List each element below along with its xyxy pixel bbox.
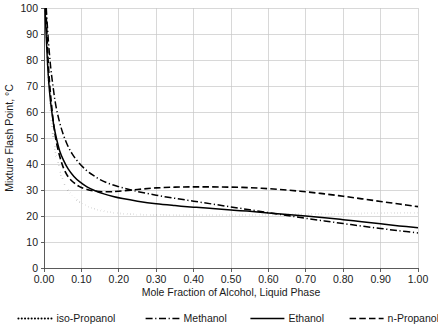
x-tick-label: 0.30	[146, 273, 167, 285]
x-tick-label: 0.80	[333, 273, 354, 285]
gridlines	[44, 8, 418, 268]
axis-titles: Mole Fraction of Alcohol, Liquid PhaseMi…	[3, 84, 320, 298]
chart-legend: iso-PropanolMethanolEthanoln-Propanol	[18, 312, 438, 324]
x-tick-label: 0.20	[109, 273, 130, 285]
y-tick-label: 90	[26, 28, 38, 40]
y-tick-label: 70	[26, 80, 38, 92]
x-axis-title: Mole Fraction of Alcohol, Liquid Phase	[142, 286, 321, 298]
y-axis-title: Mixture Flash Point, °C	[3, 84, 15, 192]
x-tick-label: 0.00	[34, 273, 55, 285]
legend-label-methanol: Methanol	[184, 312, 227, 324]
axes	[41, 8, 419, 272]
x-tick-label: 0.50	[221, 273, 242, 285]
series-curve-ethanol	[45, 8, 418, 228]
y-tick-label: 20	[26, 210, 38, 222]
series-curve-n-propanol	[46, 8, 418, 207]
legend-label-iso-propanol: iso-Propanol	[56, 312, 115, 324]
x-tick-label: 0.10	[71, 273, 92, 285]
legend-label-ethanol: Ethanol	[288, 312, 324, 324]
series-curve-iso-propanol	[46, 8, 419, 215]
y-tick-label: 60	[26, 106, 38, 118]
y-tick-label: 40	[26, 158, 38, 170]
x-tick-label: 0.40	[183, 273, 204, 285]
y-tick-label: 30	[26, 184, 38, 196]
x-tick-label: 1.00	[408, 273, 429, 285]
series-curves	[45, 8, 418, 233]
x-tick-label: 0.90	[370, 273, 391, 285]
y-tick-label: 50	[26, 132, 38, 144]
y-tick-label: 0	[32, 262, 38, 274]
flash-point-chart: 01020304050607080901000.000.100.200.300.…	[0, 0, 438, 332]
legend-label-n-propanol: n-Propanol	[388, 312, 438, 324]
y-tick-label: 10	[26, 236, 38, 248]
x-tick-label: 0.70	[296, 273, 317, 285]
x-tick-label: 0.60	[258, 273, 279, 285]
chart-canvas: 01020304050607080901000.000.100.200.300.…	[0, 0, 438, 332]
y-tick-label: 100	[20, 2, 38, 14]
y-tick-label: 80	[26, 54, 38, 66]
